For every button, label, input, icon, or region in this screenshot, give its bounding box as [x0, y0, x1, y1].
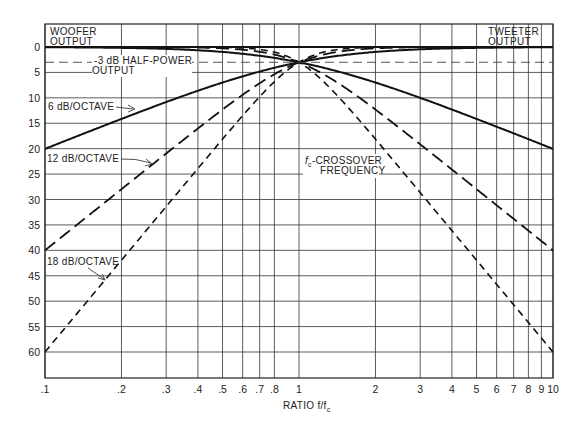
- six-db-arrow: [116, 107, 133, 109]
- x-tick-label: .7: [255, 383, 264, 395]
- x-tick-label: 5: [474, 383, 480, 395]
- six-db-label: 6 dB/OCTAVE: [48, 101, 114, 112]
- tweeter-label-2: OUTPUT: [488, 36, 531, 47]
- twelve-db-label: 12 dB/OCTAVE: [47, 153, 119, 164]
- x-tick-label: .2: [117, 383, 126, 395]
- y-tick-label: 25: [28, 168, 40, 180]
- x-tick-label: 4: [449, 383, 455, 395]
- x-tick-label: .1: [41, 383, 50, 395]
- x-tick-label: 8: [525, 383, 531, 395]
- y-tick-label: 0: [34, 41, 40, 53]
- y-tick-label: 30: [28, 194, 40, 206]
- y-tick-label: 20: [28, 143, 40, 155]
- half-power-label-2: OUTPUT: [92, 65, 135, 76]
- crossover-chart: .1.2.3.4.5.6.7.812345678910 051015202530…: [0, 0, 581, 434]
- y-tick-label: 35: [28, 219, 40, 231]
- y-tick-label: 15: [28, 117, 40, 129]
- y-tick-label: 10: [28, 92, 40, 104]
- woofer-label-2: OUTPUT: [50, 36, 93, 47]
- x-tick-label: .4: [194, 383, 203, 395]
- x-tick-labels: .1.2.3.4.5.6.7.812345678910: [41, 383, 559, 395]
- x-tick-label: .6: [238, 383, 247, 395]
- x-tick-label: 9: [538, 383, 544, 395]
- eighteen-db-label: 18 dB/OCTAVE: [47, 256, 119, 267]
- y-tick-label: 60: [28, 346, 40, 358]
- eighteen-db-arrow: [88, 268, 104, 279]
- x-tick-label: 1: [296, 383, 302, 395]
- x-tick-label: 7: [511, 383, 517, 395]
- y-tick-label: 50: [28, 295, 40, 307]
- x-tick-label: .8: [270, 383, 279, 395]
- y-tick-label: 45: [28, 270, 40, 282]
- x-tick-label: .3: [162, 383, 171, 395]
- y-tick-label: 5: [34, 66, 40, 78]
- x-axis-title: RATIO f/fc: [283, 400, 331, 413]
- x-tick-label: 6: [494, 383, 500, 395]
- x-tick-label: 10: [547, 383, 559, 395]
- y-tick-label: 55: [28, 321, 40, 333]
- y-tick-labels: 051015202530354045505560: [28, 41, 40, 358]
- x-tick-label: 2: [373, 383, 379, 395]
- x-tick-label: 3: [417, 383, 423, 395]
- grid: [45, 24, 553, 378]
- x-tick-label: .5: [218, 383, 227, 395]
- y-tick-label: 40: [28, 244, 40, 256]
- crossover-label-2: FREQUENCY: [320, 165, 386, 176]
